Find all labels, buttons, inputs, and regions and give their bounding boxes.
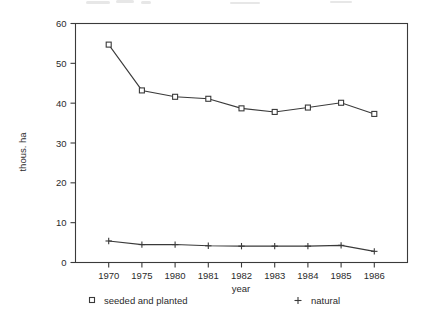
- x-tick-label: 1975: [131, 270, 152, 281]
- x-tick-label: 1970: [98, 270, 119, 281]
- x-tick-label: 1986: [364, 270, 385, 281]
- data-point-marker: [305, 105, 310, 110]
- chart-legend: seeded and planted natural: [90, 295, 341, 306]
- plus-marker-icon: [295, 297, 302, 304]
- data-point-marker: [172, 241, 178, 247]
- data-point-marker: [272, 109, 277, 114]
- x-tick-label: 1981: [198, 270, 219, 281]
- data-point-marker: [239, 106, 244, 111]
- data-point-marker: [238, 243, 244, 249]
- legend-label-natural: natural: [311, 295, 340, 306]
- x-tick-label: 1982: [231, 270, 252, 281]
- square-marker-icon: [90, 298, 95, 303]
- x-tick-label: 1980: [165, 270, 186, 281]
- data-point-marker: [339, 100, 344, 105]
- data-point-marker: [305, 243, 311, 249]
- y-tick-label: 40: [56, 98, 67, 109]
- x-axis-ticks: 197019751980198119821983198419851986: [98, 263, 385, 281]
- legend-label-seeded-and-planted: seeded and planted: [104, 295, 187, 306]
- line-chart-canvas: 6050403020100 19701975198019811982198319…: [0, 0, 423, 316]
- plot-frame: [76, 24, 408, 263]
- y-tick-label: 30: [56, 138, 67, 149]
- data-point-marker: [139, 88, 144, 93]
- y-axis-title: thous. ha: [17, 132, 28, 172]
- scan-artifact: [86, 0, 352, 4]
- y-tick-label: 0: [61, 257, 66, 268]
- y-tick-label: 60: [56, 18, 67, 29]
- series-seeded-and-planted: [106, 42, 377, 116]
- y-axis-ticks: 6050403020100: [56, 18, 76, 268]
- data-point-marker: [272, 243, 278, 249]
- x-tick-label: 1983: [264, 270, 285, 281]
- chart-figure: 6050403020100 19701975198019811982198319…: [0, 0, 423, 316]
- y-tick-label: 20: [56, 177, 67, 188]
- data-point-marker: [372, 111, 377, 116]
- data-point-marker: [106, 42, 111, 47]
- data-point-marker: [206, 96, 211, 101]
- x-tick-label: 1984: [297, 270, 318, 281]
- data-point-marker: [139, 241, 145, 247]
- series-layer: [106, 42, 378, 254]
- y-tick-label: 10: [56, 217, 67, 228]
- data-point-marker: [338, 242, 344, 248]
- series-natural: [106, 238, 378, 255]
- legend-item-seeded-and-planted[interactable]: seeded and planted: [90, 295, 188, 306]
- data-point-marker: [106, 238, 112, 244]
- x-axis-title: year: [232, 283, 250, 294]
- data-point-marker: [173, 94, 178, 99]
- data-point-marker: [371, 248, 377, 254]
- data-point-marker: [205, 243, 211, 249]
- x-tick-label: 1985: [331, 270, 352, 281]
- series-polyline: [109, 45, 375, 114]
- y-tick-label: 50: [56, 58, 67, 69]
- legend-item-natural[interactable]: natural: [295, 295, 341, 306]
